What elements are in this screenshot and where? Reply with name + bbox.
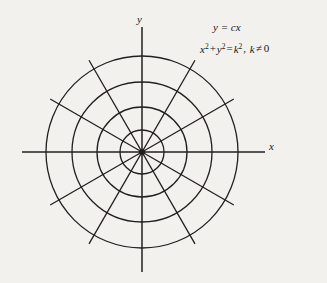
eq-op-equals: = <box>226 42 234 54</box>
equation-annotations: y = cx x2+y2=k2, k≠0 <box>200 22 325 55</box>
eq-op-neq: ≠ <box>255 42 263 54</box>
eq-comma: , <box>242 42 247 54</box>
eq-exp-y: 2 <box>222 42 226 51</box>
eq-term-zero: 0 <box>263 42 271 54</box>
equation-circle-family: x2+y2=k2, k≠0 <box>200 43 325 55</box>
x-axis-label: x <box>269 140 274 152</box>
equation-line-family: y = cx <box>213 22 325 34</box>
y-axis-label: y <box>137 13 142 25</box>
origin-point <box>139 149 145 155</box>
eq-op-plus: + <box>209 42 217 54</box>
